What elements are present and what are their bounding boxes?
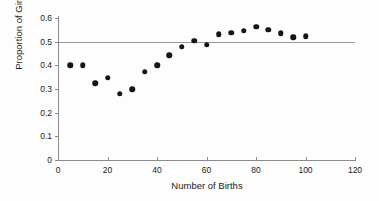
data-point [142,69,148,75]
x-tick-mark [306,157,307,161]
x-tick-label: 20 [103,165,112,175]
x-tick-mark [355,157,356,161]
data-point [117,91,123,97]
y-tick-mark [55,160,59,161]
y-tick-label: 0.1 [12,131,52,141]
y-tick-mark [55,113,59,114]
x-tick-label: 60 [202,165,211,175]
data-point [154,63,160,69]
data-point [278,30,284,36]
data-point [191,38,197,44]
y-tick-label: 0.2 [12,108,52,118]
data-point [130,86,136,92]
data-point [229,30,235,36]
data-point [68,63,74,69]
x-tick-label: 120 [348,165,362,175]
x-tick-mark [157,157,158,161]
scatter-chart-figure: 020406080100120 00.10.20.30.40.50.6 Numb… [0,0,379,201]
x-tick-label: 100 [298,165,312,175]
data-point [105,75,111,81]
y-tick-mark [55,136,59,137]
x-tick-label: 0 [56,165,61,175]
data-point [266,27,272,33]
data-point [80,63,86,69]
y-tick-label: 0 [12,155,52,165]
data-point [253,24,259,30]
x-axis-title: Number of Births [58,180,356,191]
data-point [241,28,247,34]
y-tick-mark [55,42,59,43]
y-tick-mark [55,65,59,66]
y-tick-mark [55,89,59,90]
x-tick-label: 80 [251,165,260,175]
data-point [290,35,296,41]
data-point [303,33,309,39]
x-tick-mark [108,157,109,161]
data-point [204,42,210,48]
y-tick-mark [55,18,59,19]
data-point [216,31,222,37]
x-tick-label: 40 [152,165,161,175]
y-axis-title: Proportion of Girls [13,0,24,92]
plot-area: 020406080100120 00.10.20.30.40.50.6 Numb… [0,0,379,201]
data-point [179,44,185,50]
x-tick-mark [207,157,208,161]
data-point [92,80,98,86]
data-point [167,52,173,58]
x-tick-mark [256,157,257,161]
